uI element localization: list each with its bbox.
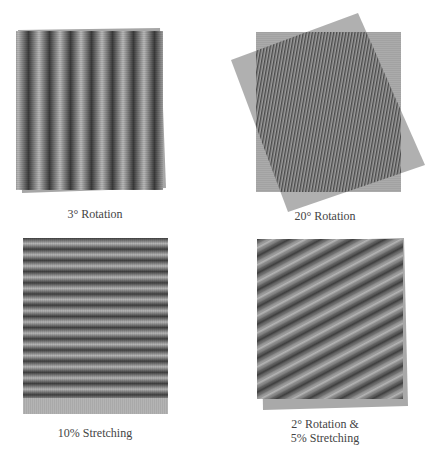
panel-2-degree-rotation-5-percent-stretching: 2° Rotation & 5% Stretching bbox=[220, 225, 435, 455]
caption: 2° Rotation & 5% Stretching bbox=[270, 417, 380, 445]
caption-line: 5% Stretching bbox=[270, 431, 380, 445]
moire-pattern-horizontal-fringes bbox=[0, 225, 220, 455]
panel-3-degree-rotation: 3° Rotation bbox=[0, 0, 220, 225]
caption-line: 10% Stretching bbox=[58, 426, 132, 440]
caption: 10% Stretching bbox=[40, 426, 150, 440]
panel-20-degree-rotation: 20° Rotation bbox=[220, 0, 435, 225]
caption: 3° Rotation bbox=[40, 207, 150, 221]
caption-line: 2° Rotation & bbox=[270, 417, 380, 431]
moire-pattern-vertical-fringes bbox=[0, 0, 220, 225]
caption: 20° Rotation bbox=[270, 209, 380, 223]
caption-line: 20° Rotation bbox=[294, 209, 355, 223]
panel-10-percent-stretching: 10% Stretching bbox=[0, 225, 220, 455]
caption-line: 3° Rotation bbox=[67, 207, 122, 221]
moire-pattern-fine-lines bbox=[220, 0, 435, 225]
